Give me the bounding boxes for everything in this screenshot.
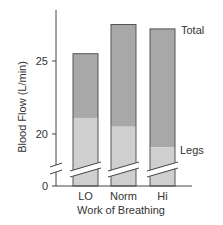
x-axis-title: Work of Breathing xyxy=(77,204,165,216)
bar-legs-lo xyxy=(73,118,98,186)
x-category-label-norm: Norm xyxy=(110,190,137,202)
bars xyxy=(70,25,178,187)
bar-total-hi xyxy=(150,29,175,147)
x-category-label-hi: Hi xyxy=(157,190,167,202)
blood-flow-chart: 25 20 0 Blood Flow (L/min) LO Norm Hi Wo… xyxy=(0,0,223,225)
bar-total-lo xyxy=(73,54,98,118)
bar-legs-norm xyxy=(111,127,136,186)
y-tick-label-25: 25 xyxy=(36,55,48,67)
x-category-label-lo: LO xyxy=(78,190,93,202)
legend-label-total: Total xyxy=(181,24,204,36)
legend-label-legs: Legs xyxy=(180,144,204,156)
bar-total-norm xyxy=(111,25,136,127)
y-axis-title: Blood Flow (L/min) xyxy=(16,61,28,153)
y-tick-label-0: 0 xyxy=(42,180,48,192)
y-tick-label-20: 20 xyxy=(36,128,48,140)
